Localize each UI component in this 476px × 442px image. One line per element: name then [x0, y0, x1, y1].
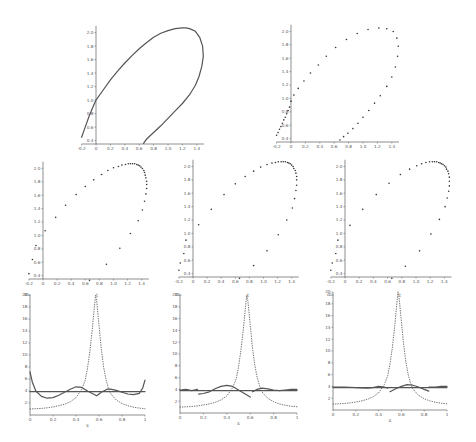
data-point: [330, 270, 332, 272]
y-tick-label: 0.6: [336, 258, 343, 263]
data-point: [438, 162, 440, 164]
y-tick-label: 1.6: [87, 57, 94, 62]
data-point: [349, 225, 351, 227]
data-point: [421, 163, 423, 165]
chart-top-left: -0.200.20.40.60.81.01.21.40.40.60.81.01.…: [78, 26, 204, 151]
data-point: [386, 86, 388, 88]
data-point: [293, 168, 295, 170]
data-point: [441, 163, 443, 165]
data-point: [75, 194, 77, 196]
y-tick-label: 14: [325, 325, 331, 330]
data-point: [140, 166, 142, 168]
data-point: [395, 66, 397, 68]
y-tick-label: 10: [22, 352, 28, 357]
series-estimate-tail: [429, 386, 447, 387]
data-point: [294, 198, 296, 200]
data-point: [65, 205, 67, 207]
x-tick-label: 0.6: [136, 146, 143, 151]
x-tick-label: 1.2: [374, 144, 381, 149]
y-tick-label: 1.2: [34, 219, 41, 224]
data-point: [397, 45, 399, 47]
data-point: [144, 172, 146, 174]
x-tick-label: 0.2: [356, 279, 363, 284]
data-point: [335, 47, 337, 49]
row2-xlabel: t: [247, 292, 249, 298]
x-tick-label: 0.8: [398, 279, 405, 284]
y-tick-label: 0.4: [336, 271, 343, 276]
data-point: [449, 176, 451, 178]
data-point: [211, 209, 213, 211]
x-tick-label: 0.8: [119, 417, 126, 422]
y-tick-label: 2: [25, 400, 28, 405]
y-tick-label: 10: [325, 348, 331, 353]
y-tick-label: 1.2: [87, 84, 94, 89]
y-tick-label: 1.4: [87, 71, 94, 76]
x-tick-label: 0: [192, 279, 195, 284]
data-point: [367, 29, 369, 31]
data-point: [430, 233, 432, 235]
y-tick-label: 6: [175, 375, 178, 380]
data-point: [391, 278, 393, 280]
data-point: [178, 270, 180, 272]
y-tick-label: 1.0: [336, 231, 343, 236]
y-tick-label: 2.0: [184, 164, 191, 169]
y-tick-label: 1.4: [34, 206, 41, 211]
x-tick-label: 0.6: [331, 144, 338, 149]
y-tick-label: 1.2: [184, 217, 191, 222]
data-point: [425, 162, 427, 164]
x-tick-label: -0.2: [25, 281, 34, 286]
data-point: [397, 55, 399, 57]
data-point: [297, 88, 299, 90]
data-point: [253, 265, 255, 267]
y-tick-label: 1.8: [282, 42, 289, 47]
y-tick-label: 2: [328, 396, 331, 401]
data-point: [93, 179, 95, 181]
y-tick-label: 0.6: [184, 258, 191, 263]
data-point: [416, 165, 418, 167]
chart-bottom-right: 00.20.40.60.812468101214161820x: [325, 289, 449, 423]
data-point: [449, 180, 451, 182]
data-point: [375, 194, 377, 196]
y-tick-label: 1.4: [282, 69, 289, 74]
chart-bottom-left: 00.20.40.60.812468101214161820x: [22, 292, 147, 428]
data-point: [386, 28, 388, 30]
y-tick-label: 6: [25, 376, 28, 381]
data-point: [292, 207, 294, 209]
data-point: [282, 161, 284, 163]
data-point: [290, 100, 292, 102]
y-tick-label: 0.8: [34, 246, 41, 251]
data-point: [287, 110, 289, 112]
x-tick-label: 0.6: [384, 279, 391, 284]
data-point: [292, 166, 294, 168]
row2-ylabel: m₁: [327, 291, 334, 297]
x-tick-label: 0: [42, 281, 45, 286]
x-tick-label: 0.4: [223, 415, 230, 420]
y-tick-label: 0.6: [87, 125, 94, 130]
data-point: [444, 206, 446, 208]
x-tick-label: 0.4: [121, 146, 128, 151]
y-tick-label: 16: [325, 313, 331, 318]
y-tick-label: 18: [22, 304, 28, 309]
data-point: [107, 170, 109, 172]
x-tick-label: 0.4: [218, 279, 225, 284]
x-tick-label: 0.2: [352, 412, 359, 417]
data-point: [294, 170, 296, 172]
y-tick-label: 18: [172, 304, 178, 309]
x-tick-label: 0.8: [270, 415, 277, 420]
data-point: [388, 182, 390, 184]
y-tick-label: 2.0: [282, 29, 289, 34]
data-point: [143, 170, 145, 172]
data-point: [409, 168, 411, 170]
data-point: [85, 186, 87, 188]
data-point: [244, 176, 246, 178]
data-point: [429, 161, 431, 163]
data-point: [449, 185, 451, 187]
x-tick-label: 0.4: [73, 417, 80, 422]
data-point: [446, 168, 448, 170]
data-point: [146, 180, 148, 182]
x-axis-label: x: [237, 420, 240, 426]
y-tick-label: 6: [328, 372, 331, 377]
data-point: [279, 128, 281, 130]
y-tick-label: 2.0: [87, 30, 94, 35]
data-point: [130, 163, 132, 165]
